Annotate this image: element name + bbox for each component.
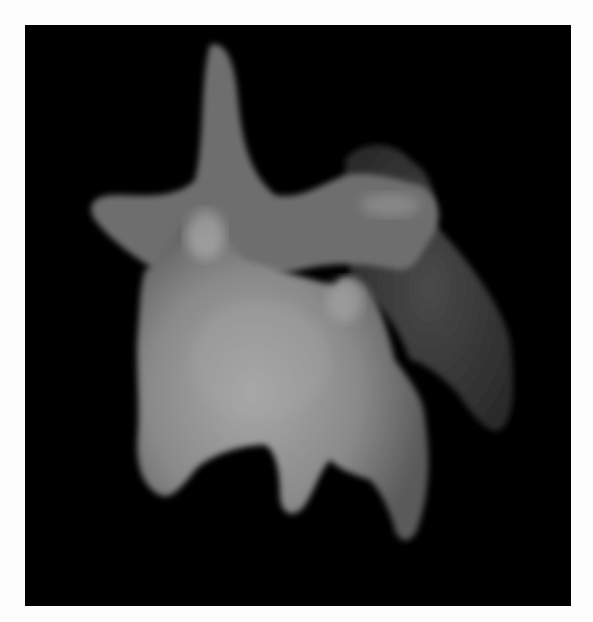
highlight [185,210,225,260]
image-frame [25,25,571,606]
highlight [190,300,330,420]
blob-image [25,25,571,606]
highlight [327,278,363,322]
highlight [360,193,420,217]
